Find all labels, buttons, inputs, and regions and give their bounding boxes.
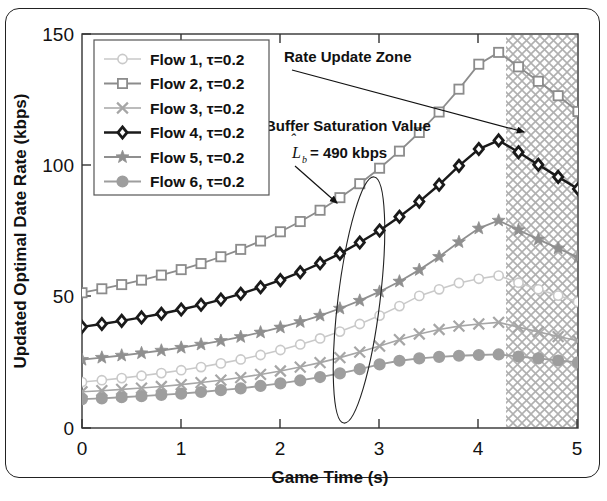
marker-circle-filled xyxy=(255,381,265,391)
marker-square-open xyxy=(454,85,463,94)
marker-square-open xyxy=(335,193,344,202)
marker-circle-open xyxy=(335,327,344,336)
legend-label-flow-6: Flow 6, τ=0.2 xyxy=(150,173,244,190)
marker-circle-filled xyxy=(216,385,226,395)
marker-circle-filled xyxy=(553,355,563,365)
marker-circle-filled xyxy=(434,352,444,362)
marker-star xyxy=(195,338,208,350)
marker-square-open xyxy=(157,271,166,280)
marker-circle-filled xyxy=(295,375,305,385)
marker-circle-filled xyxy=(394,356,404,366)
marker-circle-open xyxy=(177,366,186,375)
marker-circle-open xyxy=(375,311,384,320)
y-tick-label-50: 50 xyxy=(53,286,74,307)
marker-x-cross xyxy=(315,357,326,368)
legend-label-flow-1: Flow 1, τ=0.2 xyxy=(150,51,244,68)
marker-star xyxy=(135,346,148,358)
marker-square-open xyxy=(276,227,285,236)
marker-square-open xyxy=(117,280,126,289)
marker-circle-filled xyxy=(474,350,484,360)
marker-diamond-open xyxy=(157,308,166,319)
marker-circle-filled xyxy=(355,364,365,374)
marker-circle-filled xyxy=(176,388,186,398)
marker-diamond-open xyxy=(375,225,384,236)
marker-circle-open xyxy=(77,377,86,386)
marker-square-open xyxy=(494,48,503,57)
marker-x-cross xyxy=(335,352,346,363)
marker-circle-open xyxy=(118,54,127,63)
buffer-subscript: b xyxy=(302,154,307,165)
marker-circle-filled xyxy=(493,349,503,359)
marker-diamond-open xyxy=(335,248,344,259)
marker-star xyxy=(175,341,188,353)
marker-star xyxy=(492,214,505,226)
marker-star xyxy=(155,344,168,356)
marker-circle-open xyxy=(454,278,463,287)
x-tick-label-4: 4 xyxy=(473,438,484,459)
marker-diamond-open xyxy=(355,237,364,248)
marker-star xyxy=(393,275,406,287)
x-tick-label-3: 3 xyxy=(374,438,385,459)
marker-x-cross xyxy=(354,347,365,358)
marker-square-open xyxy=(256,236,265,245)
marker-diamond-open xyxy=(216,294,225,305)
marker-diamond-open xyxy=(494,135,503,146)
marker-star xyxy=(314,309,327,321)
marker-circle-open xyxy=(196,362,205,371)
marker-square-open xyxy=(177,265,186,274)
marker-circle-open xyxy=(355,319,364,328)
marker-diamond-open xyxy=(97,318,106,329)
marker-circle-filled xyxy=(236,383,246,393)
marker-square-open xyxy=(97,284,106,293)
marker-circle-filled xyxy=(335,368,345,378)
marker-circle-open xyxy=(573,297,582,306)
marker-circle-open xyxy=(97,376,106,385)
buffer-saturation-formula: L ̂ b = 490 kbps xyxy=(291,133,387,165)
marker-circle-filled xyxy=(414,353,424,363)
y-axis-ticks xyxy=(82,34,91,428)
marker-circle-filled xyxy=(315,372,325,382)
marker-square-open xyxy=(236,245,245,254)
marker-star xyxy=(274,321,287,333)
legend-label-flow-2: Flow 2, τ=0.2 xyxy=(150,75,244,92)
chart-plot: 0 1 2 3 4 5 0 50 100 150 Game Time (s) U… xyxy=(0,0,607,501)
marker-square-open xyxy=(554,91,563,100)
marker-diamond-open xyxy=(77,321,86,332)
marker-x-cross xyxy=(414,329,425,340)
marker-square-open xyxy=(196,259,205,268)
marker-circle-open xyxy=(296,340,305,349)
marker-square-open xyxy=(355,179,364,188)
marker-circle-open xyxy=(157,369,166,378)
buffer-value: = 490 kbps xyxy=(310,144,387,161)
x-tick-label-2: 2 xyxy=(275,438,286,459)
marker-star xyxy=(294,315,307,327)
marker-circle-open xyxy=(276,345,285,354)
marker-square-open xyxy=(534,77,543,86)
marker-star xyxy=(373,285,386,297)
rate-update-zone-label: Rate Update Zone xyxy=(284,48,412,65)
marker-circle-filled xyxy=(117,176,127,186)
legend-label-flow-5: Flow 5, τ=0.2 xyxy=(150,149,244,166)
marker-circle-open xyxy=(216,359,225,368)
x-tick-label-0: 0 xyxy=(77,438,88,459)
chart-root: 0 1 2 3 4 5 0 50 100 150 Game Time (s) U… xyxy=(0,0,607,501)
marker-diamond-open xyxy=(256,282,265,293)
y-axis-title: Updated Optimal Date Rate (kbps) xyxy=(11,94,30,369)
marker-x-cross xyxy=(374,341,385,352)
marker-circle-open xyxy=(435,285,444,294)
buffer-saturation-arrow xyxy=(295,166,337,203)
marker-diamond-open xyxy=(177,304,186,315)
marker-diamond-open xyxy=(296,267,305,278)
marker-square-open xyxy=(474,60,483,69)
marker-circle-filled xyxy=(136,391,146,401)
marker-star xyxy=(214,334,227,346)
marker-circle-filled xyxy=(533,353,543,363)
buffer-symbol: L xyxy=(291,144,301,161)
marker-circle-open xyxy=(236,355,245,364)
marker-circle-open xyxy=(117,373,126,382)
marker-circle-filled xyxy=(156,390,166,400)
marker-diamond-open xyxy=(117,315,126,326)
marker-circle-open xyxy=(534,285,543,294)
marker-square-open xyxy=(216,252,225,261)
marker-square-open xyxy=(395,147,404,156)
